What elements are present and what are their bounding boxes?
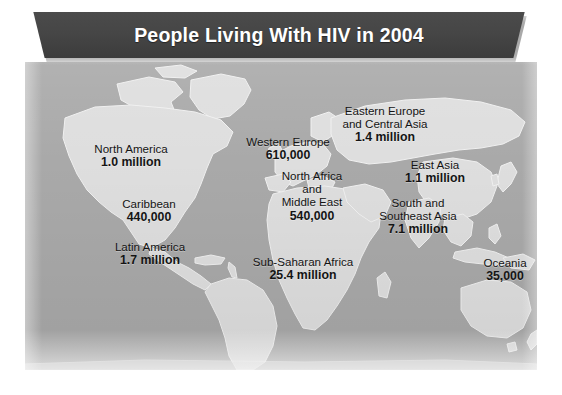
region-value: 7.1 million	[379, 222, 456, 236]
new-zealand-shape	[527, 330, 537, 350]
region-label-caribbean: Caribbean 440,000	[122, 197, 176, 224]
region-name-line-3: Middle East	[282, 195, 343, 208]
region-value: 610,000	[246, 148, 330, 162]
region-label-south-southeast-asia: South and Southeast Asia 7.1 million	[379, 196, 456, 236]
region-value: 540,000	[282, 209, 343, 223]
tasmania-shape	[507, 342, 517, 352]
antarctica-shape	[25, 360, 537, 370]
region-label-oceania: Oceania 35,000	[483, 256, 526, 283]
region-name: Sub-Saharan Africa	[253, 255, 354, 268]
region-value: 1.4 million	[342, 130, 427, 144]
region-value: 1.1 million	[405, 171, 465, 185]
greenland-shape	[190, 74, 251, 119]
region-label-north-america: North America 1.0 million	[94, 142, 167, 169]
region-value: 1.0 million	[94, 155, 167, 169]
region-label-eastern-europe-central-asia: Eastern Europe and Central Asia 1.4 mill…	[342, 104, 427, 144]
region-name-line-1: North Africa	[282, 169, 343, 182]
japan-shape	[497, 162, 517, 192]
madagascar-shape	[377, 272, 391, 298]
caribbean-lesser-antilles-shape	[228, 262, 237, 278]
caribbean-islands-shape	[195, 255, 225, 265]
region-name: Oceania	[483, 256, 526, 269]
region-value: 35,000	[483, 269, 526, 283]
region-name: Latin America	[115, 240, 185, 253]
region-label-sub-saharan-africa: Sub-Saharan Africa 25.4 million	[253, 255, 354, 282]
title-banner-container: People Living With HIV in 2004	[0, 0, 562, 62]
region-name-line-1: Eastern Europe	[342, 104, 427, 117]
region-name: North America	[94, 142, 167, 155]
arctic-islands-shape	[155, 65, 197, 78]
region-label-east-asia: East Asia 1.1 million	[405, 158, 465, 185]
region-name: Western Europe	[246, 135, 330, 148]
region-name-line-1: South and	[379, 196, 456, 209]
philippines-shape	[489, 224, 501, 244]
korea-shape	[491, 174, 499, 186]
region-value: 1.7 million	[115, 253, 185, 267]
australia-shape	[461, 280, 531, 338]
region-label-latin-america: Latin America 1.7 million	[115, 240, 185, 267]
title-banner: People Living With HIV in 2004	[22, 12, 536, 58]
region-value: 25.4 million	[253, 268, 354, 282]
region-name-line-2: and Central Asia	[342, 117, 427, 130]
region-name: East Asia	[405, 158, 465, 171]
region-name: Caribbean	[122, 197, 176, 210]
north-america-shape	[63, 105, 233, 248]
region-value: 440,000	[122, 210, 176, 224]
region-label-western-europe: Western Europe 610,000	[246, 135, 330, 162]
region-label-north-africa-middle-east: North Africa and Middle East 540,000	[282, 169, 343, 223]
south-america-shape	[205, 278, 277, 370]
page-title: People Living With HIV in 2004	[134, 24, 424, 47]
region-name-line-2: Southeast Asia	[379, 209, 456, 222]
region-name-line-2: and	[282, 182, 343, 195]
